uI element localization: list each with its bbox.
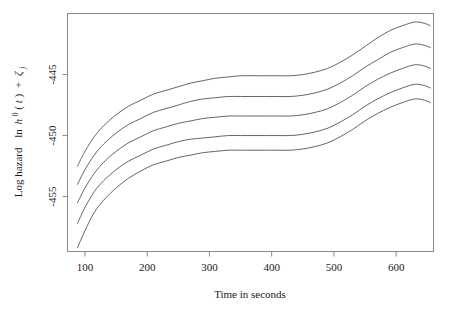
y-axis-tick-label: -450 (46, 125, 58, 146)
x-axis-tick-label: 200 (139, 261, 156, 273)
x-axis-tick-label: 400 (263, 261, 280, 273)
y-axis-title-h: h (12, 118, 24, 124)
y-axis-tick-label: -445 (46, 64, 58, 85)
y-axis-title-h-superscript: 0 (11, 112, 20, 116)
y-axis-title-plus: + (12, 82, 24, 88)
figure-background (0, 0, 455, 320)
y-axis-title-paren-close: ) (12, 93, 25, 97)
y-axis-title-zeta-subscript: j (18, 67, 27, 70)
y-axis-title-paren-open: ( (12, 106, 25, 110)
x-axis-tick-label: 100 (77, 261, 94, 273)
x-axis-tick-label: 600 (388, 261, 405, 273)
y-axis-tick-label: -455 (46, 186, 58, 207)
y-axis-title-zeta: ζ (12, 70, 25, 76)
chart-canvas: 100200300400500600 -445-450-455 Time in … (0, 0, 455, 320)
x-axis-tick-label: 500 (326, 261, 343, 273)
y-axis-title-t: t (12, 99, 24, 103)
figure-container: 100200300400500600 -445-450-455 Time in … (0, 0, 455, 320)
x-axis-tick-label: 300 (201, 261, 218, 273)
y-axis-title-prefix: Log hazard (12, 147, 24, 197)
x-axis-title: Time in seconds (214, 288, 286, 300)
y-axis-title-ln: ln (12, 129, 24, 138)
